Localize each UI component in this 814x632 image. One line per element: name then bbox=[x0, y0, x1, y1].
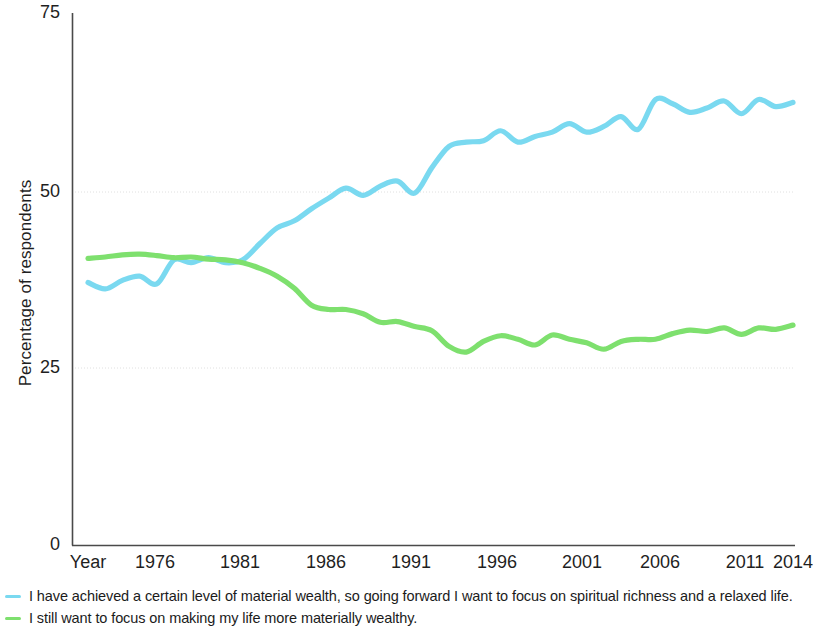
x-tick-label-1991: 1991 bbox=[381, 552, 441, 573]
axis-lines bbox=[72, 13, 795, 546]
x-tick-label-1996: 1996 bbox=[467, 552, 527, 573]
x-tick-label-2014: 2014 bbox=[763, 552, 814, 573]
legend-item-0: I have achieved a certain level of mater… bbox=[0, 585, 814, 607]
x-tick-label-2001: 2001 bbox=[552, 552, 612, 573]
legend: I have achieved a certain level of mater… bbox=[0, 585, 814, 629]
x-tick-label-2006: 2006 bbox=[630, 552, 690, 573]
series-line-green bbox=[88, 254, 793, 352]
x-tick-label-1981: 1981 bbox=[210, 552, 270, 573]
plot-area bbox=[0, 0, 814, 580]
legend-color-swatch-blue bbox=[5, 595, 21, 598]
legend-label-0: I have achieved a certain level of mater… bbox=[29, 588, 793, 604]
legend-color-swatch-green bbox=[5, 617, 21, 620]
legend-item-1: I still want to focus on making my life … bbox=[0, 607, 814, 629]
x-tick-label-1986: 1986 bbox=[296, 552, 356, 573]
legend-label-1: I still want to focus on making my life … bbox=[29, 610, 417, 626]
line-chart: Percentage of respondents 75 50 25 0 Yea… bbox=[0, 0, 814, 632]
series-paths bbox=[88, 98, 793, 352]
x-axis-title: Year bbox=[58, 552, 118, 573]
gridlines bbox=[72, 192, 795, 368]
x-tick-label-1976: 1976 bbox=[125, 552, 185, 573]
series-line-blue bbox=[88, 98, 793, 289]
